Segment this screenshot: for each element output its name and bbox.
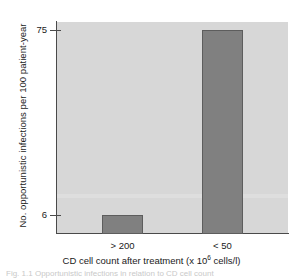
figure-caption-text: Fig. 1.1 Opportunistic infections in rel… <box>6 271 297 278</box>
x-axis-line <box>56 233 289 234</box>
y-tick-mark-6 <box>50 215 61 216</box>
y-axis-title: No. opportunistic infections per 100 pat… <box>17 18 28 233</box>
y-axis-line <box>56 21 57 234</box>
plot-area <box>57 22 288 233</box>
y-tick-label-75: 75 <box>36 24 47 35</box>
figure-caption-clipped: Fig. 1.1 Opportunistic infections in rel… <box>6 271 297 278</box>
bar-chart-figure: No. opportunistic infections per 100 pat… <box>0 0 303 278</box>
y-tick-label-6: 6 <box>42 209 47 220</box>
bar-gt-200 <box>102 215 143 234</box>
plot-faint-band <box>57 194 288 198</box>
x-axis-title-main: CD cell count after treatment (x 10 <box>63 255 208 266</box>
x-category-label-0: > 200 <box>92 240 153 251</box>
x-axis-title-tail: cells/l) <box>211 255 241 266</box>
x-category-label-1: < 50 <box>192 240 253 251</box>
x-axis-title: CD cell count after treatment (x 106 cel… <box>0 255 303 266</box>
y-tick-mark-75 <box>50 30 61 31</box>
bar-lt-50 <box>202 30 243 234</box>
